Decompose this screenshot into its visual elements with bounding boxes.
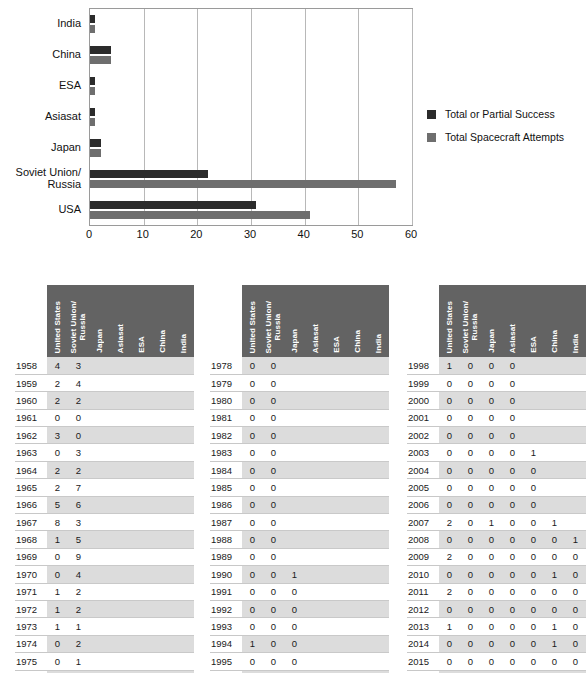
table-cell: 0	[481, 600, 502, 617]
table-cell-year: 1961	[15, 409, 47, 426]
table-cell: 0	[460, 409, 481, 426]
table-cell-year: 1998	[407, 357, 439, 374]
table-cell: 0	[481, 496, 502, 513]
table-cell	[89, 531, 110, 548]
table-cell: 2	[68, 600, 89, 617]
table-cell	[326, 531, 347, 548]
table-cell	[284, 461, 305, 478]
table-cell	[110, 618, 131, 635]
table-cell	[110, 444, 131, 461]
table-cell: 0	[481, 653, 502, 670]
table-cell: 0	[242, 566, 263, 583]
table-cell-year: 2012	[407, 600, 439, 617]
table-row: 200600000	[407, 496, 586, 513]
table-cell: 0	[263, 653, 284, 670]
column-header-label-line2: Russia	[79, 301, 88, 353]
table-cell: 0	[47, 635, 68, 652]
table-cell-year: 1972	[15, 600, 47, 617]
table-cell	[152, 409, 173, 426]
table-cell	[326, 566, 347, 583]
chart-bars	[90, 9, 412, 225]
table-cell-year: 1985	[210, 479, 242, 496]
table-row: 198000	[210, 392, 389, 409]
table-cell	[305, 600, 326, 617]
table-cell: 0	[242, 618, 263, 635]
table-cell	[305, 583, 326, 600]
table-cell: 0	[502, 392, 523, 409]
table-cell: 2	[47, 374, 68, 391]
table-cell	[131, 548, 152, 565]
legend-swatch-icon	[427, 110, 436, 119]
table-cell: 3	[68, 514, 89, 531]
table-cell	[110, 374, 131, 391]
table-cell: 0	[523, 479, 544, 496]
bar-attempts	[90, 211, 310, 219]
table-row: 20100000010	[407, 566, 586, 583]
table-cell: 1	[47, 531, 68, 548]
table-cell	[173, 409, 194, 426]
table-cell: 0	[460, 479, 481, 496]
table-cell	[326, 392, 347, 409]
table-row: 20080000001	[407, 531, 586, 548]
table-cell	[173, 653, 194, 670]
table-cell-year: 1959	[15, 374, 47, 391]
x-tick-label: 0	[86, 228, 92, 240]
table-cell: 0	[523, 548, 544, 565]
table-cell	[305, 653, 326, 670]
table-cell	[326, 618, 347, 635]
table-cell: 0	[263, 392, 284, 409]
table-cell	[110, 514, 131, 531]
table-cell	[89, 427, 110, 444]
table-cell	[565, 374, 586, 391]
table-cell-year: 1970	[15, 566, 47, 583]
table-cell: 1	[439, 357, 460, 374]
bar-group	[90, 71, 412, 102]
table-cell	[284, 531, 305, 548]
bar-attempts	[90, 87, 95, 95]
table-cell	[284, 374, 305, 391]
bar-group	[90, 163, 412, 194]
table-cell: 0	[263, 479, 284, 496]
table-cell	[173, 427, 194, 444]
chart-x-axis-ticks: 0102030405060	[89, 228, 413, 248]
table-cell	[89, 618, 110, 635]
table-cell	[347, 600, 368, 617]
table-cell	[152, 635, 173, 652]
column-header-4: ESA	[131, 285, 152, 357]
table-row: 196230	[15, 427, 194, 444]
column-header-label: China	[158, 327, 167, 353]
table-cell	[326, 461, 347, 478]
table-cell	[305, 461, 326, 478]
bar-attempts	[90, 180, 396, 188]
table-cell	[89, 357, 110, 374]
table-cell: 0	[502, 566, 523, 583]
table-cell	[131, 427, 152, 444]
table-row: 2007201001	[407, 514, 586, 531]
table-cell-year: 1971	[15, 583, 47, 600]
table-cell	[89, 444, 110, 461]
table-cell	[326, 479, 347, 496]
table-cell: 0	[565, 618, 586, 635]
table-cell-year: 2006	[407, 496, 439, 513]
table-cell	[523, 392, 544, 409]
column-header-label: Asiasat	[311, 321, 320, 353]
table-cell-year: 1986	[210, 496, 242, 513]
table-cell	[89, 479, 110, 496]
table-row: 20131000010	[407, 618, 586, 635]
bar-group	[90, 102, 412, 133]
table-cell-year: 1968	[15, 531, 47, 548]
table-cell	[565, 479, 586, 496]
table-cell	[110, 479, 131, 496]
table-cell: 2	[47, 461, 68, 478]
table-row: 196656	[15, 496, 194, 513]
table-cell	[368, 496, 389, 513]
table-cell: 0	[263, 514, 284, 531]
table-cell	[347, 653, 368, 670]
table-cell	[89, 514, 110, 531]
table-cell: 0	[439, 600, 460, 617]
table-cell	[110, 392, 131, 409]
table-cell	[326, 583, 347, 600]
table-cell-year: 1966	[15, 496, 47, 513]
column-header-label: Asiasat	[508, 321, 517, 353]
table-row: 197311	[15, 618, 194, 635]
